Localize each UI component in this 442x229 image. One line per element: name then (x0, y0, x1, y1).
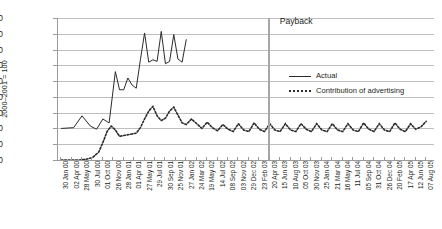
x-tick-label: 26 Dec 04 (387, 161, 393, 190)
x-tick-mark (206, 157, 207, 161)
x-tick-mark (269, 157, 270, 161)
x-tick-label: 19 May 02 (209, 161, 215, 191)
payback-label: Payback (280, 16, 313, 26)
x-tick-label: 27 Jan 02 (189, 161, 195, 189)
x-tick-mark (217, 157, 218, 161)
series-line-contribution (61, 106, 426, 160)
x-tick-label: 30 Nov 03 (314, 161, 320, 190)
payback-vertical-line (268, 18, 270, 160)
x-axis-ticks: 30 Jan 0002 Apr 0028 May 0030 Jul 0001 O… (57, 161, 433, 229)
chart-legend: Actual Contribution of advertising (289, 70, 429, 100)
x-tick-label: 03 Nov 02 (241, 161, 247, 190)
x-tick-label: 20 Apr 03 (272, 161, 278, 188)
x-tick-label: 30 Jan 00 (63, 161, 69, 189)
x-tick-label: 01 Apr 01 (136, 161, 142, 188)
x-tick-label: 15 Jun 03 (282, 161, 288, 189)
x-tick-mark (154, 157, 155, 161)
x-tick-label: 25 Nov 01 (178, 161, 184, 190)
x-tick-label: 01 Oct 00 (105, 161, 111, 189)
x-tick-mark (164, 157, 165, 161)
y-tick-label-80: 80 (0, 93, 3, 101)
legend-key-solid-line-icon (289, 72, 311, 80)
x-tick-mark (248, 157, 249, 161)
legend-item-actual: Actual (289, 70, 429, 82)
x-tick-mark (394, 157, 395, 161)
x-tick-mark (133, 157, 134, 161)
x-tick-label: 05 Sep 04 (366, 161, 372, 190)
y-tick-label-20: 20 (0, 140, 3, 148)
x-tick-label: 29 Jul 01 (157, 161, 163, 187)
x-tick-label: 26 Nov 00 (116, 161, 122, 190)
x-tick-mark (237, 157, 238, 161)
x-tick-mark (175, 157, 176, 161)
legend-item-contribution: Contribution of advertising (289, 85, 429, 97)
x-tick-mark (196, 157, 197, 161)
x-tick-label: 27 May 01 (147, 161, 153, 191)
x-tick-mark (123, 157, 124, 161)
x-tick-mark (342, 157, 343, 161)
legend-key-dotted-line-icon (289, 87, 311, 95)
x-tick-label: 17 Apr 05 (408, 161, 414, 188)
x-tick-mark (352, 157, 353, 161)
x-tick-label: 29 Dec 02 (251, 161, 257, 190)
x-tick-label: 05 Oct 03 (303, 161, 309, 189)
x-tick-mark (144, 157, 145, 161)
legend-label-contribution: Contribution of advertising (316, 87, 404, 95)
x-tick-label: 16 May 04 (345, 161, 351, 191)
x-tick-mark (102, 157, 103, 161)
y-tick-label-0: 0 (0, 156, 3, 164)
x-tick-mark (185, 157, 186, 161)
x-tick-label: 30 Jul 00 (95, 161, 101, 187)
x-tick-label: 07 Aug 05 (428, 161, 434, 190)
y-tick-label-100: 100 (0, 77, 3, 85)
y-tick-label-120: 120 (0, 61, 3, 69)
x-tick-label: 23 Feb 03 (262, 161, 268, 190)
y-tick-label-60: 60 (0, 109, 3, 117)
x-tick-label: 30 Sep 01 (168, 161, 174, 190)
x-tick-label: 28 Jan 01 (126, 161, 132, 189)
x-tick-mark (404, 157, 405, 161)
x-tick-label: 20 Feb 05 (397, 161, 403, 190)
x-tick-mark (227, 157, 228, 161)
legend-label-actual: Actual (316, 72, 337, 80)
x-tick-label: 08 Sep 02 (230, 161, 236, 190)
y-tick-label-140: 140 (0, 46, 3, 54)
x-tick-mark (384, 157, 385, 161)
x-tick-label: 12 Jun 05 (418, 161, 424, 189)
x-tick-mark (112, 157, 113, 161)
x-tick-label: 02 Apr 00 (74, 161, 80, 188)
y-tick-label-40: 40 (0, 124, 3, 132)
x-tick-mark (310, 157, 311, 161)
y-tick-label-180: 180 (0, 14, 3, 22)
x-tick-mark (258, 157, 259, 161)
x-tick-mark (363, 157, 364, 161)
y-tick-label-160: 160 (0, 30, 3, 38)
y-axis-ticks: 020406080100120140160180 (0, 0, 57, 229)
x-tick-mark (60, 157, 61, 161)
x-tick-mark (321, 157, 322, 161)
x-tick-mark (290, 157, 291, 161)
x-tick-mark (81, 157, 82, 161)
x-tick-label: 21 Mar 04 (335, 161, 341, 190)
x-tick-mark (71, 157, 72, 161)
x-tick-label: 25 Jan 04 (324, 161, 330, 189)
x-tick-mark (415, 157, 416, 161)
x-tick-label: 14 Jul 02 (220, 161, 226, 187)
x-tick-label: 28 May 00 (84, 161, 90, 191)
x-tick-label: 31 Oct 04 (376, 161, 382, 189)
x-tick-label: 11 Jul 04 (355, 161, 361, 186)
x-tick-mark (373, 157, 374, 161)
x-tick-mark (331, 157, 332, 161)
sales-volume-chart: Sales volume average 2000–2001 = 100 020… (0, 0, 442, 229)
x-tick-mark (300, 157, 301, 161)
x-tick-mark (91, 157, 92, 161)
x-tick-label: 24 Mar 02 (199, 161, 205, 190)
x-tick-label: 10 Aug 03 (293, 161, 299, 190)
